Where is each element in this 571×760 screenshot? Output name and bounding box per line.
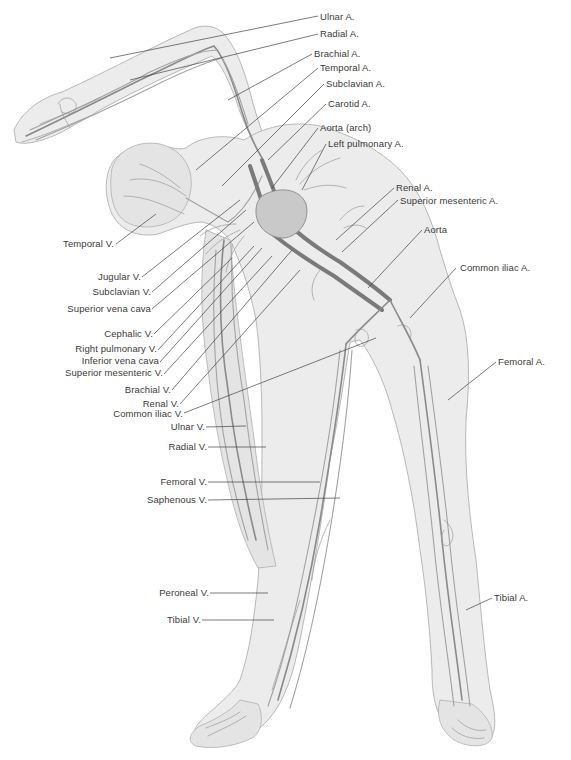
label-brachial-artery: Brachial A. [314,48,361,59]
label-tibial-artery: Tibial A. [494,592,528,603]
label-temporal-artery: Temporal A. [320,62,371,73]
label-left-pulmonary-artery: Left pulmonary A. [328,138,404,149]
label-superior-vena-cava: Superior vena cava [67,303,151,314]
label-peroneal-vein: Peroneal V. [159,587,209,598]
label-brachial-vein: Brachial V. [125,384,171,395]
label-radial-artery: Radial A. [320,28,359,39]
label-right-pulmonary-vein: Right pulmonary V. [75,343,157,354]
label-superior-mesenteric-vein: Superior mesenteric V. [65,367,163,378]
label-carotid-artery: Carotid A. [328,98,371,109]
label-tibial-vein: Tibial V. [167,614,201,625]
circulatory-system-illustration [0,0,571,760]
label-aorta: Aorta [424,224,447,235]
label-subclavian-artery: Subclavian A. [326,78,385,89]
label-cephalic-vein: Cephalic V. [104,328,153,339]
label-radial-vein: Radial V. [168,441,207,452]
label-ulnar-vein: Ulnar V. [171,421,205,432]
label-femoral-vein: Femoral V. [160,476,207,487]
label-subclavian-vein: Subclavian V. [92,286,151,297]
label-common-iliac-vein: Common iliac V. [113,408,183,419]
label-femoral-artery: Femoral A. [498,356,545,367]
label-superior-mesenteric-artery: Superior mesenteric A. [400,195,498,206]
label-aorta-arch: Aorta (arch) [320,122,371,133]
label-common-iliac-artery: Common iliac A. [460,262,530,273]
label-inferior-vena-cava: Inferior vena cava [82,355,159,366]
label-ulnar-artery: Ulnar A. [320,11,355,22]
label-temporal-vein: Temporal V. [63,238,114,249]
label-saphenous-vein: Saphenous V. [147,494,207,505]
label-jugular-vein: Jugular V. [98,271,141,282]
label-renal-artery: Renal A. [396,182,433,193]
body-silhouette [14,26,495,747]
